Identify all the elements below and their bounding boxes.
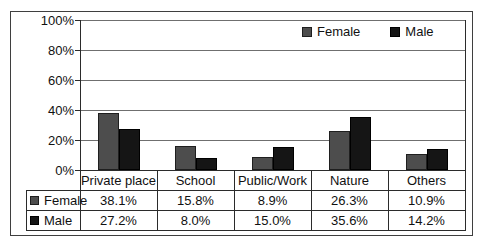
y-tick-label: 100% — [11, 13, 74, 28]
y-tick-label: 80% — [11, 43, 74, 58]
legend-label: Male — [405, 24, 433, 39]
category-label: Public/Work — [234, 170, 311, 190]
table-border — [26, 230, 466, 231]
category-label: Others — [388, 170, 465, 190]
plot-right-border — [465, 20, 466, 230]
table-value-cell: 14.2% — [388, 210, 465, 230]
legend-item-female: Female — [302, 24, 360, 39]
table-value-cell: 8.9% — [234, 190, 311, 210]
category-label: Private place — [80, 170, 157, 190]
y-tick-label: 0% — [11, 163, 74, 178]
table-series-name: Male — [26, 210, 80, 230]
legend-item-male: Male — [390, 24, 433, 39]
bar-female — [175, 146, 196, 170]
table-series-label: Male — [44, 213, 72, 228]
table-series-name: Female — [26, 190, 80, 210]
bar-male — [196, 158, 217, 170]
table-value-cell: 15.8% — [157, 190, 234, 210]
table-value-cell: 10.9% — [388, 190, 465, 210]
legend-swatch-female-icon — [302, 27, 312, 37]
table-swatch-female-icon — [30, 196, 39, 205]
y-tick-label: 20% — [11, 133, 74, 148]
y-tick-label: 40% — [11, 103, 74, 118]
bar-male — [427, 149, 448, 170]
gridline — [80, 50, 465, 51]
legend-swatch-male-icon — [390, 27, 400, 37]
gridline — [80, 80, 465, 81]
category-label: School — [157, 170, 234, 190]
table-value-cell: 27.2% — [80, 210, 157, 230]
table-value-cell: 15.0% — [234, 210, 311, 230]
gridline — [80, 20, 465, 21]
legend-label: Female — [317, 24, 360, 39]
bar-female — [329, 131, 350, 170]
chart-canvas: FemaleMale 100%80%60%40%20%0%Private pla… — [0, 0, 479, 242]
chart-frame: FemaleMale 100%80%60%40%20%0%Private pla… — [10, 11, 473, 236]
y-tick-label: 60% — [11, 73, 74, 88]
bar-female — [252, 157, 273, 170]
bar-male — [273, 147, 294, 170]
bar-female — [406, 154, 427, 170]
table-swatch-male-icon — [30, 216, 39, 225]
table-value-cell: 38.1% — [80, 190, 157, 210]
legend: FemaleMale — [302, 24, 434, 39]
table-value-cell: 35.6% — [311, 210, 388, 230]
table-value-cell: 26.3% — [311, 190, 388, 210]
category-label: Nature — [311, 170, 388, 190]
gridline — [80, 110, 465, 111]
bar-female — [98, 113, 119, 170]
bar-male — [119, 129, 140, 170]
table-value-cell: 8.0% — [157, 210, 234, 230]
bar-male — [350, 117, 371, 170]
